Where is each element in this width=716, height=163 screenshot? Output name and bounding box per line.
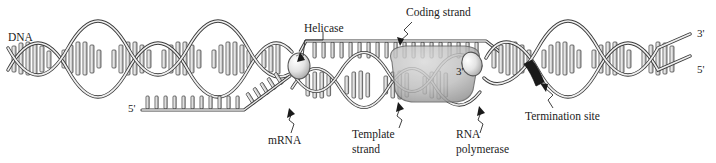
dna-helix-left — [8, 21, 292, 97]
label-coding-strand: Coding strand — [406, 6, 471, 18]
label-right-three-prime: 3' — [697, 28, 704, 40]
label-mrna: mRNA — [268, 134, 301, 146]
mrna-transcript — [142, 72, 290, 110]
label-right-five-prime: 5' — [697, 64, 704, 76]
label-bubble-three-prime: 3' — [456, 66, 463, 78]
label-rna-polymerase-line2: polymerase — [456, 143, 509, 155]
label-rna-polymerase-line1: RNA — [456, 128, 480, 140]
dna-helix-right — [484, 21, 690, 97]
label-template-strand-line1: Template — [352, 128, 395, 140]
label-mrna-five-prime: 5' — [128, 103, 135, 115]
label-template-strand-line2: strand — [352, 143, 380, 155]
label-termination-site: Termination site — [525, 110, 600, 122]
label-helicase: Helicase — [304, 22, 344, 34]
transcription-diagram: DNA Helicase Coding strand mRNA Template… — [0, 0, 716, 163]
label-dna: DNA — [8, 31, 33, 43]
